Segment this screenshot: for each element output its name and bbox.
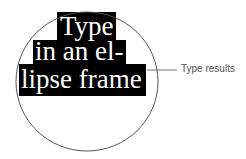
text-line-2: in an el- (35, 38, 123, 65)
ellipse-frame-diagram: Type in an el- lipse frame Type results (0, 0, 246, 159)
text-line-3: lipse frame (21, 66, 142, 93)
callout-label: Type results (181, 63, 235, 74)
